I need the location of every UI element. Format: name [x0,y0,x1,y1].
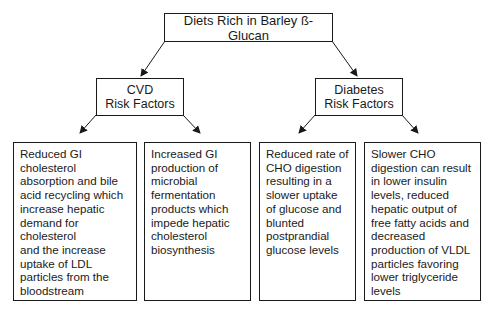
cvd-mechanism-microbial-fermentation: Increased GI production of microbial fer… [144,142,251,301]
arrow-cvd-to-box1 [80,115,96,133]
diabetes-risk-node: Diabetes Risk Factors [315,78,403,116]
diabetes-mechanism-insulin-vldl: Slower CHO digestion can result in lower… [364,142,481,301]
cvd-risk-node: CVD Risk Factors [96,78,184,116]
root-node-label: Diets Rich in Barley ß-Glucan [165,13,332,43]
cvd-label-line1: CVD [127,83,153,97]
cvd-label-line2: Risk Factors [105,97,174,111]
diabetes-mechanism-cho-digestion-rate: Reduced rate of CHO digestion resulting … [259,142,356,301]
arrow-cvd-to-box2 [183,115,200,133]
cvd-mechanism-cholesterol-absorption: Reduced GI cholesterol absorption and bi… [13,142,137,301]
arrow-root-to-cvd [141,41,165,76]
diabetes-label-line1: Diabetes [334,83,383,97]
arrow-diabetes-to-box4 [402,115,418,133]
diabetes-label-line2: Risk Factors [324,97,393,111]
root-node: Diets Rich in Barley ß-Glucan [164,13,333,42]
arrow-diabetes-to-box3 [299,115,315,133]
arrow-root-to-diabetes [332,41,357,76]
